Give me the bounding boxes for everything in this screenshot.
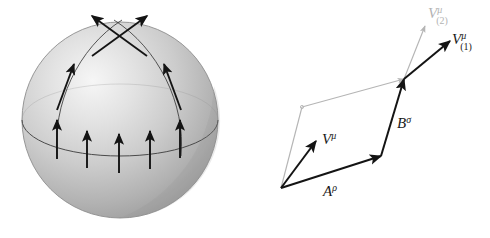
- label-b-sigma-base: B: [397, 115, 406, 131]
- sphere-panel: [22, 16, 220, 218]
- label-v-mu: Vμ: [322, 130, 336, 147]
- label-a-rho: Aρ: [322, 182, 337, 199]
- label-v-mu-2-sup: μ: [436, 4, 442, 15]
- label-a-rho-sup: ρ: [331, 182, 337, 193]
- label-v-mu-sup: μ: [330, 130, 336, 141]
- grey-edge-a: [302, 79, 404, 107]
- label-b-sigma: Bσ: [397, 114, 412, 131]
- figure-root: Vμ Aρ Bσ Vμ(1) Vμ(2): [0, 0, 490, 238]
- label-b-sigma-sup: σ: [406, 114, 412, 125]
- black-vector-v1-arrow: [404, 41, 450, 79]
- vector-v-arrow: [281, 141, 316, 188]
- parallelogram-panel: Vμ Aρ Bσ Vμ(1) Vμ(2): [281, 4, 472, 199]
- label-v-mu-2: Vμ(2): [428, 4, 448, 27]
- label-v-mu-1-sub: (1): [460, 41, 472, 53]
- grey-edge-b: [281, 107, 302, 188]
- label-v-mu-1: Vμ(1): [452, 30, 472, 53]
- figure-canvas: Vμ Aρ Bσ Vμ(1) Vμ(2): [0, 0, 490, 238]
- label-v-mu-2-sub: (2): [436, 15, 448, 27]
- grey-transport-path: [281, 79, 404, 188]
- label-v-mu-1-sup: μ: [460, 30, 466, 41]
